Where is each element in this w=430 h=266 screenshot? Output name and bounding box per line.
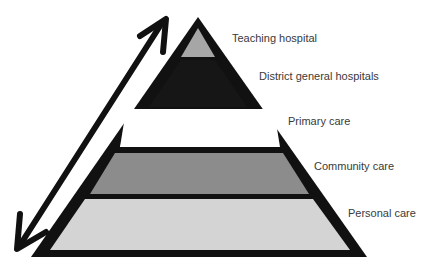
level-personal-care: [50, 199, 350, 250]
label-personal-care: Personal care: [348, 207, 416, 219]
label-community-care: Community care: [314, 160, 394, 172]
label-primary-care: Primary care: [288, 115, 350, 127]
label-teaching-hospital: Teaching hospital: [232, 32, 317, 44]
level-primary-care-fill: [120, 110, 280, 147]
label-district-general-hospitals: District general hospitals: [259, 70, 379, 82]
level-community-care: [90, 153, 309, 194]
pyramid-diagram: [0, 0, 430, 266]
